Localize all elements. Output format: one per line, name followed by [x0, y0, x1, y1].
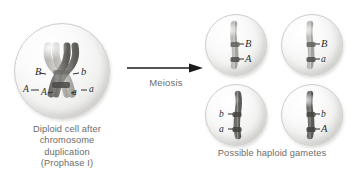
diploid-caption-line-2: chromosome [9, 135, 125, 146]
diploid-chromosomes [15, 24, 109, 118]
allele-label-lower-right-outer: a [89, 84, 94, 94]
allele-label-upper-right: b [81, 67, 86, 78]
allele-label-lower-left-outer: A [23, 84, 29, 94]
gamete-1-top-allele: B [245, 39, 251, 50]
diploid-caption-line-3: duplication [9, 147, 125, 158]
diploid-caption-line-4: (Prophase I) [9, 158, 125, 169]
gamete-cell-3: b a [205, 84, 267, 146]
meiosis-label: Meiosis [124, 77, 208, 88]
allele-label-upper-left: B [35, 67, 41, 78]
gamete-cell-4: b A [281, 84, 343, 146]
gamete-3-bottom-allele: a [219, 124, 224, 134]
allele-label-lower-right-inner: a [72, 87, 77, 97]
gametes-caption: Possible haploid gametes [196, 148, 348, 159]
gamete-4-bottom-allele: A [321, 124, 327, 135]
diploid-caption: Diploid cell after chromosome duplicatio… [9, 124, 125, 170]
diploid-cell: B b A A a a [14, 23, 110, 119]
meiosis-arrow-icon [127, 62, 203, 74]
gamete-chromosome-1 [206, 15, 266, 75]
gamete-2-top-allele: B [321, 39, 327, 50]
gamete-chromosome-2 [282, 15, 342, 75]
gamete-3-top-allele: b [219, 109, 224, 119]
gamete-2-bottom-allele: a [321, 54, 326, 64]
gamete-4-top-allele: b [321, 109, 326, 119]
gamete-cell-2: B a [281, 14, 343, 76]
meiosis-figure: B b A A a a Diploid cell after chromosom… [0, 0, 351, 180]
gamete-cell-1: B A [205, 14, 267, 76]
gamete-chromosome-3 [206, 85, 266, 145]
gamete-1-bottom-allele: A [245, 54, 251, 65]
allele-label-lower-left-inner: A [41, 87, 47, 97]
gamete-chromosome-4 [282, 85, 342, 145]
diploid-caption-line-1: Diploid cell after [9, 124, 125, 135]
